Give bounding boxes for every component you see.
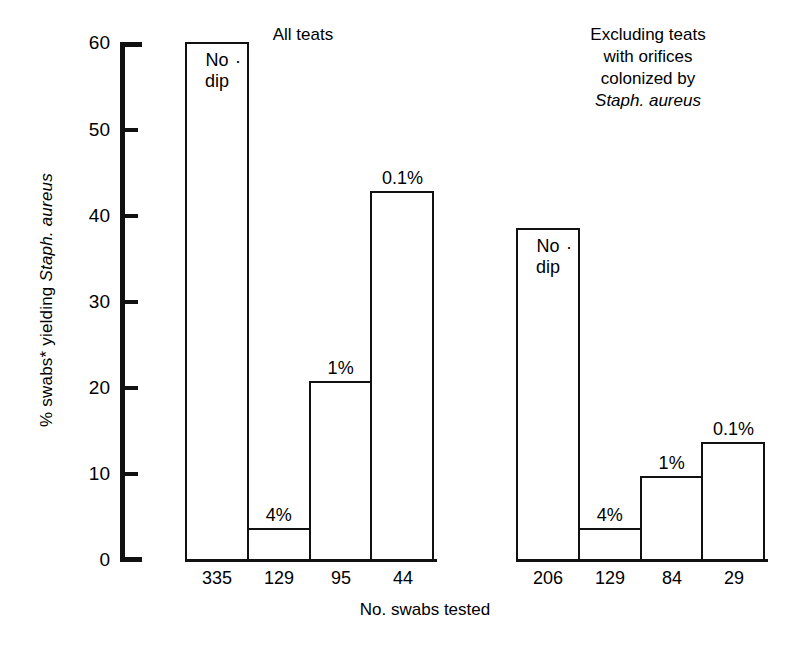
y-axis-bottom-cap xyxy=(120,557,142,562)
x-tick-label-335: 335 xyxy=(185,568,249,589)
y-tick-mark-10 xyxy=(120,472,138,476)
x-tick-label-129-left: 129 xyxy=(247,568,311,589)
y-axis-title: % swabs* yielding Staph. aureus xyxy=(37,90,57,510)
panel-title-line-1: Excluding teats xyxy=(558,24,738,46)
x-tick-label-206: 206 xyxy=(516,568,580,589)
y-tick-label-40: 40 xyxy=(68,206,110,225)
y-axis-title-roman: % swabs* yielding xyxy=(37,282,56,427)
bar-4-percent-excl[interactable]: 4% xyxy=(578,528,642,561)
y-tick-label-10: 10 xyxy=(68,464,110,483)
bar-4-percent[interactable]: 4% xyxy=(247,528,311,561)
y-tick-label-50: 50 xyxy=(68,120,110,139)
bar-label-no-dip: No· dip xyxy=(205,50,229,92)
x-tick-label-129-right: 129 xyxy=(578,568,642,589)
bar-top-label-4-percent: 4% xyxy=(266,505,292,526)
bar-top-label-0-1-percent: 0.1% xyxy=(382,168,423,189)
bar-label-no-dip-line2: dip xyxy=(205,71,229,91)
bar-no-dip[interactable]: No· dip xyxy=(185,42,249,561)
panel-bars-all-teats: No· dip 4% 1% 0.1% xyxy=(185,42,437,561)
y-axis-top-cap xyxy=(120,42,142,47)
x-tick-label-44: 44 xyxy=(371,568,435,589)
panel-baseline-all-teats xyxy=(185,559,437,562)
panel-title-excluding-colonized: Excluding teats with orifices colonized … xyxy=(558,24,738,112)
bar-0-1-percent-excl[interactable]: 0.1% xyxy=(701,442,765,561)
bar-no-dip-excl[interactable]: No· dip xyxy=(516,228,580,561)
dot-marker-icon: · xyxy=(235,51,241,72)
y-tick-mark-20 xyxy=(120,386,138,390)
bar-top-label-1-percent: 1% xyxy=(328,358,354,379)
panel-title-line-3: colonized by xyxy=(558,68,738,90)
bar-top-label-1-percent-excl: 1% xyxy=(659,453,685,474)
panel-title-line-2: with orifices xyxy=(558,46,738,68)
dot-marker-icon: · xyxy=(566,237,572,258)
bar-top-label-0-1-percent-excl: 0.1% xyxy=(713,419,754,440)
x-tick-label-84: 84 xyxy=(640,568,704,589)
y-axis-title-italic: Staph. aureus xyxy=(37,173,56,281)
x-tick-label-29: 29 xyxy=(702,568,766,589)
bar-label-no-dip-line1: No xyxy=(205,50,228,70)
panel-title-line-4: Staph. aureus xyxy=(558,90,738,112)
y-tick-label-20: 20 xyxy=(68,378,110,397)
x-tick-label-95: 95 xyxy=(309,568,373,589)
bar-1-percent[interactable]: 1% xyxy=(309,381,373,561)
bar-1-percent-excl[interactable]: 1% xyxy=(640,476,704,561)
panel-bars-excluding-colonized: No· dip 4% 1% 0.1% xyxy=(516,228,768,561)
y-tick-label-30: 30 xyxy=(68,292,110,311)
bar-0-1-percent[interactable]: 0.1% xyxy=(370,191,434,561)
y-tick-label-60: 60 xyxy=(68,33,110,52)
y-tick-mark-30 xyxy=(120,300,138,304)
y-tick-mark-40 xyxy=(120,214,138,218)
bar-label-no-dip-excl-line1: No xyxy=(536,236,559,256)
bar-chart-figure: % swabs* yielding Staph. aureus 60 50 40… xyxy=(0,0,794,649)
y-tick-label-0: 0 xyxy=(68,550,110,569)
panel-baseline-excluding-colonized xyxy=(516,559,768,562)
bar-label-no-dip-excl-line2: dip xyxy=(536,257,560,277)
x-axis-title: No. swabs tested xyxy=(280,600,570,620)
bar-label-no-dip-excl: No· dip xyxy=(536,236,560,278)
y-tick-mark-50 xyxy=(120,128,138,132)
bar-top-label-4-percent-excl: 4% xyxy=(597,505,623,526)
